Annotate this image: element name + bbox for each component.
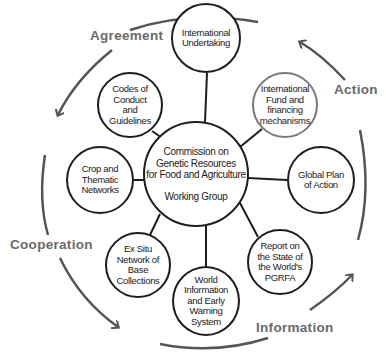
commission-diagram: Agreement Action Information Cooperation… xyxy=(0,0,386,362)
information-arrow-tail xyxy=(310,275,352,310)
node-global-plan: Global Plan of Action xyxy=(287,146,355,214)
node-label: Ex Situ Network of Base Collections xyxy=(116,244,159,286)
information-arrow xyxy=(160,338,268,348)
node-report-state: Report on the State of the World's PGRFA xyxy=(247,229,313,295)
information-label: Information xyxy=(256,320,334,335)
node-label: Codes of Conduct and Guidelines xyxy=(109,84,151,126)
agreement-label: Agreement xyxy=(90,28,163,43)
action-arrow-tail xyxy=(300,42,345,80)
node-label: World Information and Early Warning Syst… xyxy=(184,275,228,328)
node-label: Global Plan of Action xyxy=(298,170,344,191)
node-label: International Undertaking xyxy=(182,28,230,49)
node-label: Report on the State of the World's PGRFA xyxy=(258,241,303,283)
node-world-information: World Information and Early Warning Syst… xyxy=(172,266,240,336)
node-ex-situ: Ex Situ Network of Base Collections xyxy=(105,232,171,298)
cooperation-label: Cooperation xyxy=(10,237,93,252)
cooperation-arrow xyxy=(42,155,48,235)
node-codes-conduct: Codes of Conduct and Guidelines xyxy=(97,72,163,138)
action-arrow xyxy=(358,130,366,240)
action-label: Action xyxy=(334,82,378,97)
node-international-fund: International Fund and financing mechani… xyxy=(252,72,318,138)
center-node-commission: Commission on Genetic Resources for Food… xyxy=(143,121,249,227)
node-label: International Fund and financing mechani… xyxy=(260,84,310,126)
center-title: Commission on Genetic Resources for Food… xyxy=(146,146,246,181)
node-international-undertaking: International Undertaking xyxy=(171,3,241,73)
center-subtitle: Working Group xyxy=(146,191,246,203)
node-label: Crop and Thematic Networks xyxy=(81,164,118,196)
node-crop-networks: Crop and Thematic Networks xyxy=(66,146,134,214)
